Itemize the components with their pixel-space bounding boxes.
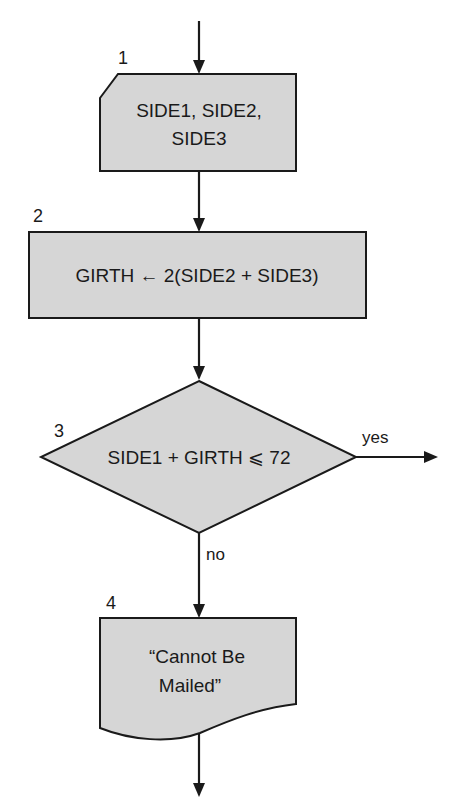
input-shape xyxy=(100,74,296,171)
step-2-line-1: GIRTH ← 2(SIDE2 + SIDE3) xyxy=(75,265,318,286)
step-1-line-1: SIDE1, SIDE2, xyxy=(136,100,262,121)
step-3-condition: SIDE1 + GIRTH ⩽ 72 xyxy=(107,447,290,468)
arrow-2-to-3 xyxy=(193,318,205,380)
entry-arrow xyxy=(193,21,205,74)
no-label: no xyxy=(206,545,225,564)
flowchart: 1 SIDE1, SIDE2, SIDE3 2 GIRTH ← 2(SIDE2 … xyxy=(0,0,457,812)
step-number-2: 2 xyxy=(33,206,43,226)
yes-branch-arrow: yes xyxy=(356,428,438,463)
step-number-1: 1 xyxy=(118,48,128,68)
exit-arrow xyxy=(193,733,205,797)
step-4-line-1: “Cannot Be xyxy=(149,646,245,667)
step-3-decision: 3 SIDE1 + GIRTH ⩽ 72 xyxy=(41,381,356,533)
step-4-line-2: Mailed” xyxy=(159,675,221,696)
step-number-4: 4 xyxy=(106,593,116,613)
yes-label: yes xyxy=(362,428,388,447)
arrow-1-to-2 xyxy=(193,171,205,232)
no-branch-arrow: no xyxy=(193,533,225,618)
step-1-line-2: SIDE3 xyxy=(172,128,227,149)
step-number-3: 3 xyxy=(54,421,64,441)
